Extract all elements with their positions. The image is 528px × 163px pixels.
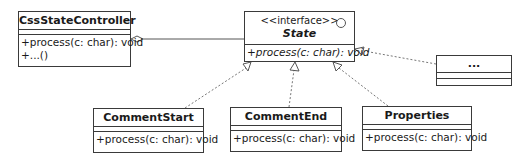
operation: +process(c: char): void bbox=[96, 133, 201, 146]
operations-compartment: +process(c: char): void +...() bbox=[19, 35, 130, 63]
realization-link-commentstart bbox=[185, 62, 251, 108]
interface-name: State bbox=[245, 27, 354, 45]
class-name: ... bbox=[437, 56, 511, 73]
aggregation-link bbox=[131, 36, 244, 42]
class-name: CommentStart bbox=[94, 109, 203, 127]
class-name: CssStateController bbox=[19, 12, 130, 30]
operations-compartment: +process(c: char): void bbox=[231, 131, 341, 146]
operation: +process(c: char): void bbox=[247, 46, 352, 59]
class-css-state-controller[interactable]: CssStateController +process(c: char): vo… bbox=[18, 11, 131, 67]
operations-compartment: +process(c: char): void bbox=[245, 45, 354, 60]
interface-state[interactable]: <<interface>> State +process(c: char): v… bbox=[244, 11, 355, 62]
operation: +process(c: char): void bbox=[365, 131, 469, 144]
operations-compartment bbox=[437, 79, 511, 84]
interface-circle-icon bbox=[336, 18, 346, 28]
operations-compartment: +process(c: char): void bbox=[363, 130, 471, 145]
realization-link-commentend bbox=[289, 62, 299, 107]
realization-link-properties bbox=[333, 62, 388, 106]
class-comment-start[interactable]: CommentStart +process(c: char): void bbox=[93, 108, 204, 153]
operations-compartment: +process(c: char): void bbox=[94, 132, 203, 147]
operation: +...() bbox=[21, 49, 128, 62]
class-name: CommentEnd bbox=[231, 108, 341, 126]
class-properties[interactable]: Properties +process(c: char): void bbox=[362, 106, 472, 151]
operation: +process(c: char): void bbox=[233, 132, 339, 145]
class-name: Properties bbox=[363, 107, 471, 125]
operation: +process(c: char): void bbox=[21, 36, 128, 49]
class-comment-end[interactable]: CommentEnd +process(c: char): void bbox=[230, 107, 342, 152]
class-others[interactable]: ... bbox=[436, 55, 512, 86]
